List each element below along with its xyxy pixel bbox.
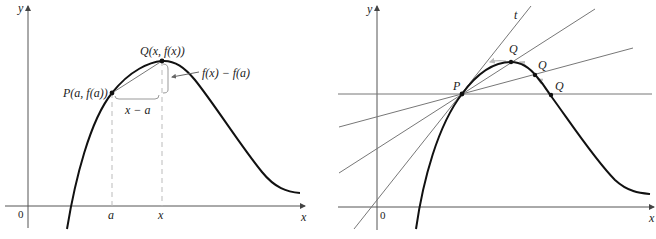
point-q-label-3: Q [555, 79, 564, 93]
y-axis-label-right: y [366, 2, 373, 16]
point-p-label-right: P [452, 79, 461, 93]
secant-line-pq [112, 61, 162, 93]
secant-line-3 [339, 48, 633, 127]
figure-canvas: y x 0 P(a, f(a)) Q(x, f(x)) f(x) − f(a) … [0, 0, 656, 239]
x-axis-label: x [300, 210, 307, 224]
tick-a-label: a [108, 208, 114, 222]
point-q-label: Q(x, f(x)) [140, 44, 185, 58]
secant-line-figure: y x 0 P(a, f(a)) Q(x, f(x)) f(x) − f(a) … [5, 1, 307, 229]
point-p [110, 91, 115, 96]
origin-label-right: 0 [380, 209, 386, 221]
tangent-line-t [354, 6, 531, 229]
rise-bracket [163, 64, 168, 93]
point-q-label-2: Q [538, 58, 547, 72]
rise-label: f(x) − f(a) [202, 66, 250, 80]
rise-annotation-arrow [172, 72, 199, 77]
tick-x-label: x [157, 208, 164, 222]
point-q-1 [509, 60, 513, 64]
tangent-label: t [514, 8, 518, 22]
origin-label: 0 [18, 208, 24, 220]
y-axis-label: y [17, 1, 24, 15]
point-q [160, 59, 165, 64]
x-axis-label-right: x [648, 211, 655, 225]
point-q-label-1: Q [509, 42, 518, 56]
point-q-2 [533, 73, 537, 77]
run-label: x − a [124, 103, 150, 117]
function-curve-right [416, 62, 650, 229]
point-p-label: P(a, f(a)) [62, 86, 108, 100]
run-bracket [115, 95, 159, 99]
point-q-3 [549, 93, 553, 97]
secants-approaching-tangent-figure: y x 0 P Q Q Q t [338, 2, 655, 230]
